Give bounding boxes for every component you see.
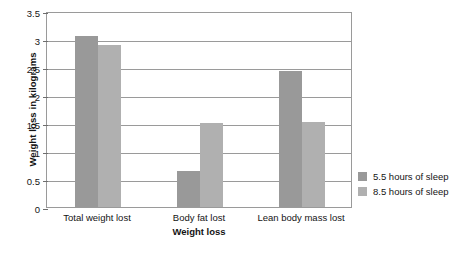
bar	[75, 36, 98, 207]
legend-label: 5.5 hours of sleep	[373, 171, 449, 182]
y-axis-tick-mark	[43, 41, 48, 42]
bar	[200, 123, 223, 207]
bar	[302, 122, 325, 207]
y-axis-tick-label: 0	[35, 204, 40, 215]
y-axis-tick-mark	[43, 13, 48, 14]
plot-area: 00.511.522.533.5	[46, 12, 352, 208]
bar	[177, 171, 200, 207]
y-axis-tick-label: 1	[35, 148, 40, 159]
y-axis-tick-mark	[43, 125, 48, 126]
legend-item: 8.5 hours of sleep	[358, 185, 449, 198]
y-axis-tick-label: 3	[35, 36, 40, 47]
y-axis-tick-mark	[43, 153, 48, 154]
y-axis-tick-label: 3.5	[27, 8, 40, 19]
x-axis-tick-label: Lean body mass lost	[257, 212, 344, 223]
y-axis-tick-mark	[43, 209, 48, 210]
y-axis-tick-mark	[43, 69, 48, 70]
y-axis-tick-label: 2.5	[27, 64, 40, 75]
bar	[98, 45, 121, 207]
x-axis-tick-label: Total weight lost	[63, 212, 131, 223]
y-axis-tick-label: 1.5	[27, 120, 40, 131]
y-axis-tick-mark	[43, 97, 48, 98]
bar	[279, 71, 302, 207]
chart-legend: 5.5 hours of sleep8.5 hours of sleep	[358, 170, 449, 200]
y-axis-title: Weight loss in kilograms	[27, 20, 38, 200]
legend-label: 8.5 hours of sleep	[373, 186, 449, 197]
bar-chart-figure: Weight loss in kilograms 00.511.522.533.…	[0, 0, 460, 257]
legend-swatch-icon	[358, 187, 367, 196]
x-axis-title: Weight loss	[46, 226, 352, 237]
legend-swatch-icon	[358, 172, 367, 181]
legend-item: 5.5 hours of sleep	[358, 170, 449, 183]
y-axis-tick-label: 2	[35, 92, 40, 103]
y-axis-tick-mark	[43, 181, 48, 182]
y-axis-tick-label: 0.5	[27, 176, 40, 187]
x-axis-tick-label: Body fat lost	[173, 212, 225, 223]
